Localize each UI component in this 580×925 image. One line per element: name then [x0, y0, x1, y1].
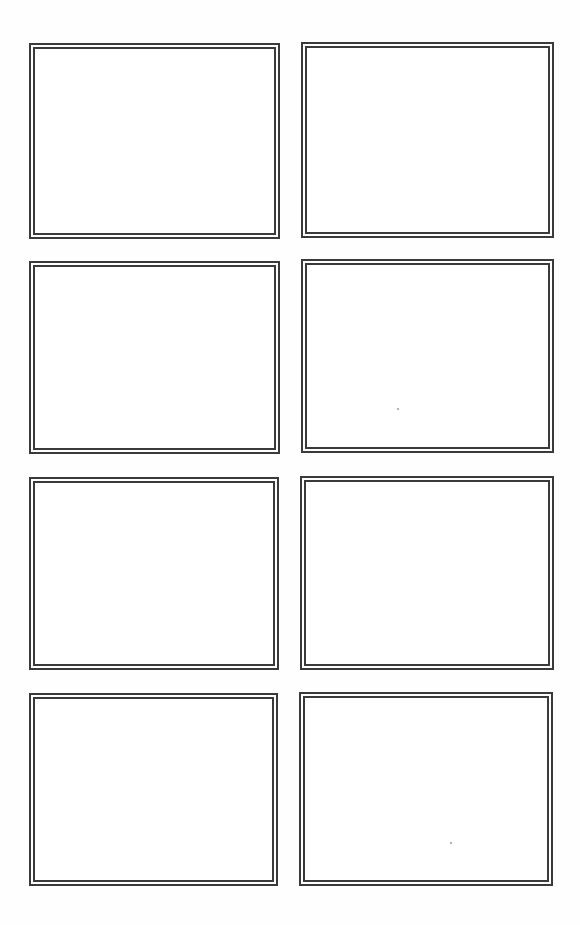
- panel-frame-3: [29, 261, 280, 454]
- panel-inner-border: [33, 47, 276, 235]
- storyboard-page: [0, 0, 580, 925]
- panel-frame-4: [301, 259, 554, 453]
- panel-inner-border: [304, 480, 550, 666]
- panel-frame-7: [29, 693, 278, 886]
- panel-inner-border: [33, 265, 276, 450]
- panel-inner-border: [305, 263, 550, 449]
- panel-inner-border: [303, 696, 549, 882]
- panel-inner-border: [33, 697, 274, 882]
- panel-frame-8: [299, 692, 553, 886]
- panel-inner-border: [33, 481, 275, 666]
- panel-frame-5: [29, 477, 279, 670]
- scan-speck: [397, 408, 399, 410]
- panel-inner-border: [305, 46, 550, 234]
- scan-speck: [450, 842, 452, 844]
- panel-frame-1: [29, 43, 280, 239]
- panel-frame-2: [301, 42, 554, 238]
- panel-frame-6: [300, 476, 554, 670]
